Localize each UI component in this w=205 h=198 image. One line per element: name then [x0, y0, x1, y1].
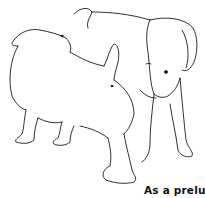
puppies-illustration — [0, 0, 205, 198]
caption-text: As a prelude — [144, 184, 205, 196]
right-puppy — [74, 8, 197, 162]
left-puppy — [10, 29, 136, 183]
